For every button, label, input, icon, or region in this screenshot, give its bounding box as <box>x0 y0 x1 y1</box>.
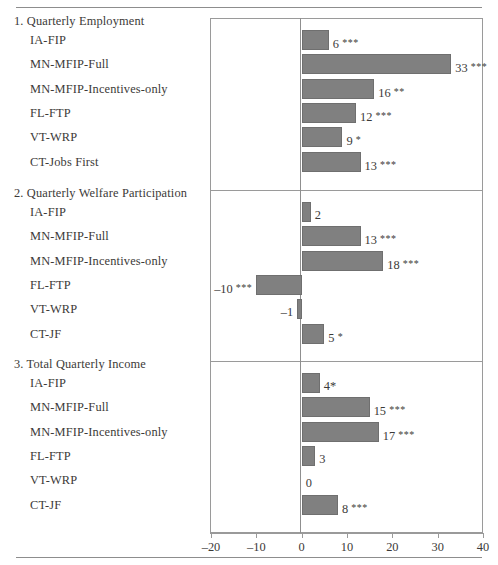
panel-title: 2. Quarterly Welfare Participation <box>14 186 187 200</box>
panel-divider-1 <box>210 190 483 191</box>
axis-tick-label: –10 <box>236 540 276 554</box>
category-label: FL-FTP <box>30 106 71 120</box>
bar-value-label: 33 *** <box>455 60 487 75</box>
axis-tick-label: –20 <box>191 540 231 554</box>
category-label: MN-MFIP-Incentives-only <box>30 82 168 96</box>
category-label: IA-FIP <box>30 33 66 47</box>
category-label: VT-WRP <box>30 473 77 487</box>
bar-value-label: 18 *** <box>387 257 419 272</box>
axis-tick-label: 30 <box>418 540 458 554</box>
bar <box>302 127 343 147</box>
axis-tick <box>483 533 484 538</box>
bar <box>302 226 361 246</box>
axis-tick <box>211 533 212 538</box>
bar <box>256 275 301 295</box>
category-label: MN-MFIP-Full <box>30 57 109 71</box>
bar-value-label: 5 * <box>328 330 343 345</box>
category-label: VT-WRP <box>30 302 77 316</box>
bottom-divider-rule <box>16 557 482 558</box>
bar-value-label: 0 <box>306 476 312 490</box>
category-label: CT-JF <box>30 498 61 512</box>
bar-value-label: 17 *** <box>383 428 415 443</box>
bar <box>302 495 338 515</box>
axis-tick <box>392 533 393 538</box>
bar-value-label: 2 <box>315 208 321 222</box>
bar <box>302 79 375 99</box>
bar <box>302 446 316 466</box>
figure-container: 1. Quarterly EmploymentIA-FIPMN-MFIP-Ful… <box>0 0 498 565</box>
category-label: MN-MFIP-Full <box>30 229 109 243</box>
panel-title: 1. Quarterly Employment <box>14 14 144 28</box>
panel-title: 3. Total Quarterly Income <box>14 357 146 371</box>
category-label: FL-FTP <box>30 278 71 292</box>
bar <box>302 324 325 344</box>
category-label: FL-FTP <box>30 449 71 463</box>
axis-tick <box>347 533 348 538</box>
bar-value-label: 16 ** <box>378 85 405 100</box>
category-label: IA-FIP <box>30 205 66 219</box>
axis-tick <box>256 533 257 538</box>
bar <box>302 30 329 50</box>
bar-value-label: 12 *** <box>360 109 392 124</box>
bar-value-label: 13 *** <box>365 158 397 173</box>
axis-tick-label: 20 <box>372 540 412 554</box>
category-label: IA-FIP <box>30 376 66 390</box>
bar-value-label: 8 *** <box>342 501 368 516</box>
category-label: MN-MFIP-Full <box>30 400 109 414</box>
bar <box>297 299 302 319</box>
axis-tick-label: 10 <box>327 540 367 554</box>
bar-value-label: 15 *** <box>374 403 406 418</box>
bar-value-label: 13 *** <box>365 232 397 247</box>
bar <box>302 422 379 442</box>
bar-value-label: –10 *** <box>214 281 252 296</box>
category-label-column: 1. Quarterly EmploymentIA-FIPMN-MFIP-Ful… <box>0 0 208 540</box>
bar <box>302 397 370 417</box>
category-label: MN-MFIP-Incentives-only <box>30 425 168 439</box>
bar <box>302 373 320 393</box>
panel-divider-2 <box>210 361 483 362</box>
bar <box>302 152 361 172</box>
bar <box>302 202 311 222</box>
bar-value-label: 9 * <box>346 133 361 148</box>
category-label: MN-MFIP-Incentives-only <box>30 254 168 268</box>
axis-tick <box>438 533 439 538</box>
axis-tick-label: 0 <box>282 540 322 554</box>
bar <box>302 54 452 74</box>
bar <box>302 251 384 271</box>
axis-tick-label: 40 <box>463 540 498 554</box>
bar-value-label: 4* <box>324 379 336 393</box>
category-label: CT-JF <box>30 327 61 341</box>
bar-value-label: –1 <box>281 305 293 319</box>
bar-value-label: 3 <box>319 452 325 466</box>
axis-tick <box>302 533 303 538</box>
bar-value-label: 6 *** <box>333 36 359 51</box>
bar <box>302 103 356 123</box>
category-label: CT-Jobs First <box>30 155 99 169</box>
category-label: VT-WRP <box>30 130 77 144</box>
